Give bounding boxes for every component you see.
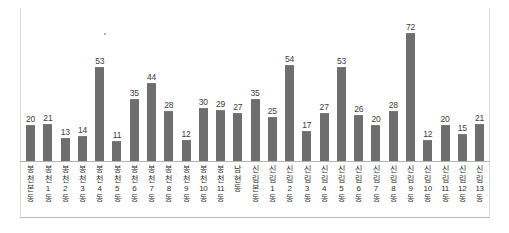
tick-label-char: 4 [98,184,102,194]
tick-label-char: 봉 [62,165,69,175]
tick-label-char: 9 [408,184,412,194]
tick-label-char: 동 [148,194,155,204]
tick-label-char: 9 [184,184,188,194]
tick-label-char: 림 [286,175,293,185]
category-tick-label: 봉천6동 [126,165,143,215]
tick-label-char: 림 [424,175,431,185]
bar [406,33,415,161]
bar [78,136,87,161]
tick-label-char: 5 [339,184,343,194]
bar-column: 27 [316,8,333,161]
tick-label-char: 신 [286,165,293,175]
category-tick-label: 신림8동 [385,165,402,215]
tick-label-char: 동 [355,194,362,204]
tick-label-char: 1 [46,184,50,194]
bar [95,67,104,161]
tick-label-char: 10 [199,184,207,194]
tick-label-char: 봉 [165,165,172,175]
bar-column: 12 [177,8,194,161]
bar-value-label: 27 [233,103,242,112]
tick-label-char: 신 [476,165,483,175]
tick-label-char: 봉 [96,165,103,175]
bar-value-label: 54 [285,55,294,64]
bar-column: 14 [74,8,91,161]
tick-label-char: 천 [217,175,224,185]
bar-value-label: 12 [423,130,432,139]
tick-label-char: 림 [252,175,259,185]
bar-column: 20 [436,8,453,161]
category-tick-label: 신림2동 [281,165,298,215]
category-tick-label: 남현동 [229,165,246,215]
bar [423,140,432,161]
tick-label-char: 림 [459,175,466,185]
bar-column: 54 [281,8,298,161]
bar-column: 15 [454,8,471,161]
tick-label-char: 신 [407,165,414,175]
tick-label-char: 2 [288,184,292,194]
tick-label-char: 림 [442,175,449,185]
bar-column: 28 [160,8,177,161]
bar-value-label: 21 [475,114,484,123]
tick-label-char: 동 [200,194,207,204]
bar [285,65,294,161]
tick-label-char: 림 [407,175,414,185]
tick-label-char: 림 [373,175,380,185]
bar-value-label: 72 [406,23,415,32]
bar-column: 35 [246,8,263,161]
bar [216,110,225,161]
tick-label-char: 13 [475,184,483,194]
tick-label-char: 신 [390,165,397,175]
bar [441,125,450,161]
tick-label-char: 동 [62,194,69,204]
tick-label-char: 5 [115,184,119,194]
bar-value-label: 11 [113,131,121,140]
bar-column: 53 [91,8,108,161]
tick-label-char: 천 [148,175,155,185]
tick-label-char: 동 [96,194,103,204]
tick-label-char: 동 [131,194,138,204]
category-tick-label: 신림10동 [419,165,436,215]
tick-label-char: 천 [27,175,34,185]
bar-chart: 2021131453113544281230292735255417275326… [0,0,509,233]
bar-column: 29 [212,8,229,161]
tick-label-char: 신 [355,165,362,175]
bar-column: 35 [126,8,143,161]
bar [112,141,121,161]
tick-label-char: 림 [355,175,362,185]
bar-column: 20 [22,8,39,161]
bar [302,131,311,161]
tick-label-char: 신 [304,165,311,175]
bar [233,113,242,161]
bar-column: 20 [367,8,384,161]
tick-label-char: 7 [149,184,153,194]
tick-label-char: 동 [183,194,190,204]
bar-column: 27 [229,8,246,161]
bar-value-label: 21 [43,114,52,123]
bar-value-label: 29 [216,100,225,109]
tick-label-char: 천 [200,175,207,185]
bar-value-label: 44 [147,73,156,82]
tick-label-char: 동 [114,194,121,204]
bar-column: 11 [108,8,125,161]
tick-label-char: 동 [286,194,293,204]
bar-value-label: 30 [199,98,208,107]
tick-label-char: 동 [304,194,311,204]
bar-value-label: 28 [164,101,173,110]
tick-label-char: 신 [373,165,380,175]
category-tick-label: 봉천5동 [108,165,125,215]
bar [251,99,260,161]
bar-value-label: 12 [181,130,190,139]
bar [26,125,35,161]
tick-label-char: 천 [96,175,103,185]
bar [458,134,467,161]
category-tick-label: 신림12동 [454,165,471,215]
tick-label-char: 봉 [148,165,155,175]
bar-value-label: 27 [320,103,329,112]
bar-column: 21 [39,8,56,161]
category-tick-label: 봉천3동 [74,165,91,215]
bar-column: 72 [402,8,419,161]
tick-label-char: 동 [234,184,241,194]
tick-label-char: 12 [458,184,466,194]
tick-label-char: 동 [217,194,224,204]
category-tick-label: 봉천7동 [143,165,160,215]
